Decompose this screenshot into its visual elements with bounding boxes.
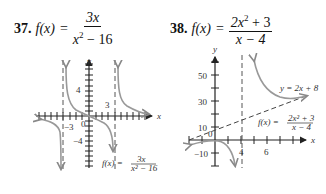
origin-label: 0 xyxy=(208,129,213,139)
tick-label-y4: 4 xyxy=(76,85,81,95)
tick-label-x3: 3 xyxy=(105,100,110,110)
graph-label-denominator: x − 4 xyxy=(291,122,312,132)
graph-function-label: f(x) = xyxy=(258,117,279,127)
slant-asymptote-label: y = 2x + 8 xyxy=(279,83,319,93)
tick-label-y30: 30 xyxy=(198,97,208,107)
tick-label-y10: 10 xyxy=(198,123,208,133)
x-axis-label: x xyxy=(156,111,161,121)
tick-label-x4: 4 xyxy=(239,147,244,157)
graph-label-denominator: x² − 16 xyxy=(130,163,158,173)
graph-38: y x 50 30 10 −10 4 6 0 y = 2x + 8 f(x) =… xyxy=(189,44,319,168)
tick-label-y-neg10: −10 xyxy=(194,149,209,159)
tick-label-y-neg4: −4 xyxy=(73,136,83,146)
y-axis-label: y xyxy=(86,56,91,66)
graphs-canvas: y x 4 −4 3 −3 0 f(x) = 3x x² − 16 xyxy=(0,0,326,194)
tick-label-x6: 6 xyxy=(264,147,269,157)
tick-label-x-neg3: −3 xyxy=(64,122,74,132)
curve-right-branch xyxy=(118,66,148,114)
curve-left-branch xyxy=(40,119,61,168)
graph-function-label: f(x) = xyxy=(102,158,123,168)
origin-label: 0 xyxy=(81,119,86,129)
y-axis-label: y xyxy=(212,44,217,54)
tick-label-y50: 50 xyxy=(198,71,208,81)
graph-37: y x 4 −4 3 −3 0 f(x) = 3x x² − 16 xyxy=(36,56,161,173)
x-axis-label: x xyxy=(310,135,315,145)
